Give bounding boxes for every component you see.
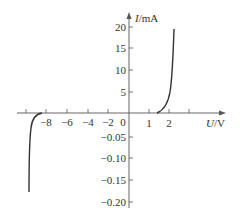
y-tick-label: −0.10 xyxy=(101,152,127,164)
origin-label: 0 xyxy=(120,116,126,128)
x-axis-arrow-icon xyxy=(219,111,226,116)
iv-characteristic-chart: −8 −6 −4 −2 0 1 2 20 15 10 5 −0.05 −0.10… xyxy=(0,0,242,222)
x-tick-label: 2 xyxy=(166,117,172,129)
x-tick-label: 1 xyxy=(146,117,152,129)
x-tick-labels: −8 −6 −4 −2 0 1 2 xyxy=(40,116,172,129)
y-tick-label: −0.20 xyxy=(101,196,127,208)
y-axis-label: I/mA xyxy=(134,12,158,24)
y-axis xyxy=(127,12,132,208)
x-tick-label: −4 xyxy=(82,116,94,128)
y-tick-label: −0.05 xyxy=(101,131,127,143)
forward-curve xyxy=(157,29,174,113)
y-tick-label: 20 xyxy=(115,21,127,33)
x-axis-label: U/V xyxy=(206,117,225,129)
y-tick-label: 15 xyxy=(115,42,127,54)
x-tick-label: −2 xyxy=(102,116,114,128)
y-tick-label: −0.15 xyxy=(101,174,127,186)
x-tick-label: −6 xyxy=(61,116,73,128)
y-ticks xyxy=(129,27,133,202)
x-axis xyxy=(17,111,226,116)
x-tick-label: −8 xyxy=(40,116,52,128)
y-tick-labels: 20 15 10 5 −0.05 −0.10 −0.15 −0.20 xyxy=(101,21,127,208)
x-ticks xyxy=(26,109,189,113)
y-tick-label: 10 xyxy=(115,64,127,76)
y-axis-arrow-icon xyxy=(127,12,132,19)
y-tick-label: 5 xyxy=(121,86,127,98)
